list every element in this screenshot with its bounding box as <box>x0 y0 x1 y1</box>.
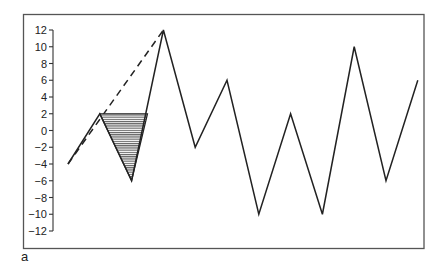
y-tick-label: −4 <box>34 158 47 170</box>
y-axis: 121086420−2−4−6−8−10−12 <box>28 24 53 237</box>
chart: 121086420−2−4−6−8−10−12 <box>0 0 446 273</box>
y-tick-label: 8 <box>41 58 47 70</box>
y-tick-label: −10 <box>28 208 47 220</box>
y-tick-label: −12 <box>28 225 47 237</box>
y-tick-label: 10 <box>35 41 47 53</box>
y-tick-label: 12 <box>35 24 47 36</box>
y-tick-label: −6 <box>34 175 47 187</box>
annotations <box>68 30 163 181</box>
y-tick-label: −2 <box>34 141 47 153</box>
panel-label: a <box>21 249 28 264</box>
y-tick-label: 0 <box>41 125 47 137</box>
chart-frame <box>24 15 425 249</box>
y-tick-label: 2 <box>41 108 47 120</box>
y-tick-label: 4 <box>41 91 47 103</box>
y-tick-label: −8 <box>34 192 47 204</box>
y-tick-label: 6 <box>41 74 47 86</box>
hatched-triangle <box>100 114 148 181</box>
